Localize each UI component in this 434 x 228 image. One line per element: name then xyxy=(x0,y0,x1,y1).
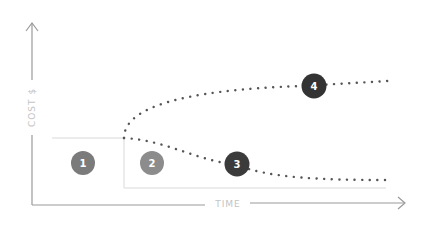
y-axis-label: COST $ xyxy=(27,88,37,127)
marker-1-label: 1 xyxy=(80,158,87,169)
marker-4-label: 4 xyxy=(311,81,318,92)
marker-1: 1 xyxy=(71,151,95,175)
cost-time-diagram: COST $ TIME 1 2 3 4 xyxy=(0,0,434,228)
marker-3: 3 xyxy=(225,152,250,177)
marker-3-label: 3 xyxy=(234,159,241,170)
marker-2-label: 2 xyxy=(149,158,156,169)
marker-2: 2 xyxy=(140,151,164,175)
lower-cost-curve xyxy=(124,138,388,180)
x-axis-label: TIME xyxy=(214,199,241,209)
upper-cost-curve xyxy=(124,81,388,138)
marker-4: 4 xyxy=(302,74,327,99)
